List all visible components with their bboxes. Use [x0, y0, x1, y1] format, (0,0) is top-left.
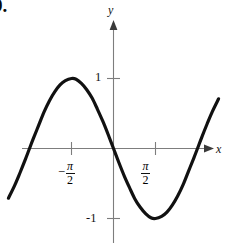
y-tick-label-negative-one: -1: [86, 212, 96, 225]
figure-root: 9. y x 1 -1 − π 2: [0, 0, 229, 250]
graph-plot: [0, 0, 229, 250]
y-axis-label: y: [108, 4, 113, 16]
y-axis-arrowhead: [110, 20, 118, 30]
fraction: π 2: [66, 160, 75, 186]
x-axis-label: x: [216, 143, 221, 155]
fraction-numerator: π: [66, 160, 74, 173]
fraction-denominator: 2: [143, 174, 149, 187]
x-tick-label-negative-pi-over-two: − π 2: [58, 160, 75, 186]
x-tick-label-pi-over-two: π 2: [141, 160, 150, 186]
y-tick-label-positive-one: 1: [95, 71, 101, 84]
fraction: π 2: [141, 160, 150, 186]
x-axis-arrowhead: [204, 145, 214, 153]
minus-sign: −: [58, 165, 65, 181]
fraction-denominator: 2: [67, 174, 73, 187]
fraction-numerator: π: [141, 160, 149, 173]
